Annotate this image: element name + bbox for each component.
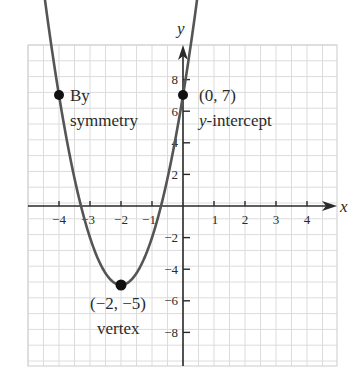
vertex-coord-label: (−2, −5) bbox=[90, 294, 146, 313]
y-intercept-point bbox=[178, 90, 188, 100]
y-tick-label: 8 bbox=[172, 72, 179, 87]
y-tick-label: −4 bbox=[164, 262, 178, 277]
y-tick-label: 2 bbox=[172, 167, 179, 182]
vertex-label: vertex bbox=[97, 319, 140, 338]
parabola-chart: x y −4 −3 −2 −1 1 2 3 4 8 6 4 2 −2 −4 −6… bbox=[0, 0, 354, 383]
y-intercept-label: (0, 7) bbox=[199, 86, 236, 105]
y-tick-label: −8 bbox=[164, 325, 178, 340]
x-tick-label: 1 bbox=[212, 212, 219, 227]
x-tick-label: −2 bbox=[114, 212, 128, 227]
symmetry-label: By bbox=[70, 86, 90, 105]
y-intercept-label-2: y-intercept bbox=[197, 111, 272, 130]
vertex-point bbox=[116, 280, 127, 291]
y-tick-label: −6 bbox=[164, 293, 178, 308]
y-axis-label: y bbox=[175, 19, 185, 38]
x-tick-label: 3 bbox=[273, 212, 280, 227]
x-tick-label: 2 bbox=[242, 212, 249, 227]
x-tick-label: 4 bbox=[304, 212, 311, 227]
x-tick-label: −4 bbox=[52, 212, 66, 227]
x-tick-label: −1 bbox=[142, 212, 156, 227]
symmetry-point bbox=[54, 90, 64, 100]
x-tick-labels: −4 −3 −2 −1 1 2 3 4 bbox=[52, 212, 311, 227]
x-axis-label: x bbox=[339, 197, 348, 216]
y-tick-label: 6 bbox=[172, 104, 179, 119]
y-tick-label: −2 bbox=[164, 230, 178, 245]
symmetry-label-2: symmetry bbox=[70, 111, 138, 130]
